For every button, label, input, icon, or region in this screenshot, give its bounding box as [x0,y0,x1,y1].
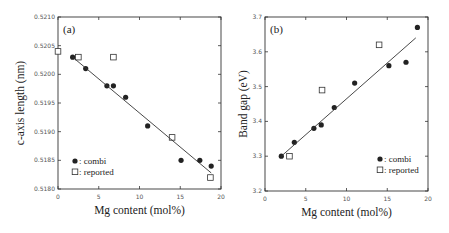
legend-combi-marker [377,156,382,161]
y-tick-label: 3.6 [252,48,262,55]
reported-point [208,175,214,181]
reported-point [287,153,293,159]
y-axis-label: c-axis length (nm) [14,61,27,145]
x-tick-label: 15 [176,193,184,200]
x-tick-label: 15 [383,195,391,202]
combi-point [178,158,183,163]
combi-point [123,95,128,100]
reported-point [111,54,117,60]
reported-point [376,42,382,48]
x-axis-label: Mg content (mol%) [301,206,392,219]
combi-point [111,83,116,88]
combi-point [386,63,391,68]
y-tick-label: 0.5180 [34,185,55,192]
chart-a: 051015200.51800.51850.51900.51950.52000.… [14,13,225,217]
y-axis-label: Band gap (eV) [237,70,250,138]
legend-combi-marker [72,158,77,163]
x-tick-label: 0 [56,193,60,200]
combi-point [311,126,316,131]
y-tick-label: 0.5205 [34,42,55,49]
fit-line [281,38,415,156]
x-tick-label: 10 [136,193,144,200]
combi-point [292,140,297,145]
combi-point [403,60,408,65]
x-tick-label: 20 [424,195,432,202]
y-tick-label: 3.3 [252,152,262,159]
legend-reported-marker [72,169,78,175]
x-tick-label: 5 [97,193,101,200]
x-axis-label: Mg content (mol%) [94,204,185,217]
reported-point [76,54,82,60]
combi-point [145,123,150,128]
y-tick-label: 3.4 [252,117,262,124]
reported-point [55,49,61,55]
y-tick-label: 0.5210 [34,13,55,20]
y-tick-label: 0.5195 [34,99,55,106]
y-tick-label: 3.2 [252,187,262,194]
chart-canvas: 051015200.51800.51850.51900.51950.52000.… [0,0,449,233]
combi-point [209,163,214,168]
chart-b: 051015203.23.33.43.53.63.7Mg content (mo… [237,13,432,219]
legend-reported-marker [377,167,383,173]
y-tick-label: 0.5190 [34,128,55,135]
reported-point [169,135,175,141]
reported-point [319,87,325,93]
panel-label: (a) [63,23,76,36]
y-tick-label: 0.5185 [34,156,55,163]
legend-reported-label: : reported [384,165,419,175]
combi-point [352,81,357,86]
x-tick-label: 20 [217,193,225,200]
y-tick-label: 3.5 [252,83,262,90]
x-tick-label: 0 [263,195,267,202]
y-tick-label: 3.7 [252,13,262,20]
panel-label: (b) [270,23,283,36]
legend-combi-label: : combi [384,154,412,164]
y-tick-label: 0.5200 [34,70,55,77]
x-tick-label: 5 [304,195,308,202]
combi-point [415,25,420,30]
legend-reported-label: : reported [79,167,114,177]
x-tick-label: 10 [343,195,351,202]
legend-combi-label: : combi [79,156,107,166]
